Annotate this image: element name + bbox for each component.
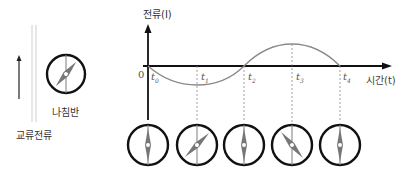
- current-direction-arrow-icon: [17, 55, 22, 99]
- x-axis: [143, 63, 392, 70]
- compass-label: 나침반: [52, 104, 79, 119]
- diagram-graphics: [0, 0, 414, 176]
- tick-t3: t3: [296, 71, 304, 84]
- tick-t0: t0: [151, 71, 159, 84]
- wire-label: 교류전류: [16, 127, 52, 142]
- y-axis-label: 전류(I): [143, 6, 172, 21]
- tick-t1: t1: [201, 71, 209, 84]
- compass-t2: [224, 125, 264, 165]
- ac-current-compass-diagram: 나침반 교류전류 전류(I) 시간(t) 0 t0 t1 t2 t3 t4: [0, 0, 414, 176]
- compass-t1: [177, 125, 217, 165]
- wire: [32, 25, 36, 122]
- x-axis-label: 시간(t): [366, 72, 396, 87]
- tick-t2: t2: [248, 71, 256, 84]
- compass-t3: [272, 125, 312, 165]
- compass-icon: [47, 55, 85, 93]
- origin-label: 0: [138, 69, 144, 80]
- tick-t4: t4: [343, 71, 351, 84]
- time-guide-lines: [197, 44, 340, 122]
- compass-t4: [320, 125, 360, 165]
- compass-t0: [128, 125, 168, 165]
